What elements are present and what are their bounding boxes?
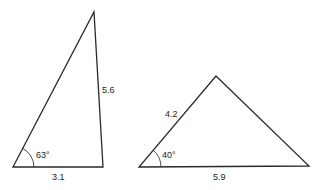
angle-label-40: 40°	[162, 150, 176, 160]
triangle-1: 63° 3.1 5.6	[13, 12, 115, 182]
angle-label-63: 63°	[36, 150, 50, 160]
side-label-3-1: 3.1	[52, 172, 65, 182]
diagram-canvas: 63° 3.1 5.6 40° 4.2 5.9	[0, 0, 318, 190]
side-label-4-2: 4.2	[165, 109, 178, 119]
triangle-1-outline	[13, 12, 103, 167]
angle-arc-icon	[153, 150, 161, 167]
angle-arc-icon	[23, 148, 35, 167]
side-label-5-6: 5.6	[102, 85, 115, 95]
side-label-5-9: 5.9	[213, 172, 226, 182]
triangle-2: 40° 4.2 5.9	[139, 76, 309, 182]
